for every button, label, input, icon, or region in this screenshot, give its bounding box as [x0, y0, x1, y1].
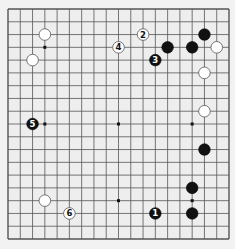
black-stone[interactable]: [186, 208, 198, 220]
black-stone[interactable]: [186, 182, 198, 194]
black-stone-circle: [162, 42, 174, 54]
move-number-label: 5: [30, 119, 36, 129]
star-point: [191, 199, 194, 202]
black-stone-move-1[interactable]: 1: [150, 208, 162, 220]
white-stone-circle: [199, 67, 211, 79]
star-point: [43, 123, 46, 126]
black-stone-circle: [199, 144, 211, 156]
white-stone-circle: [39, 195, 51, 207]
star-point: [117, 123, 120, 126]
black-stone-move-5[interactable]: 5: [27, 118, 39, 130]
black-stone[interactable]: [186, 42, 198, 54]
black-stone-circle: [199, 29, 211, 41]
move-number-label: 4: [116, 42, 122, 52]
white-stone-move-2[interactable]: 2: [137, 29, 149, 41]
move-number-label: 1: [152, 208, 158, 218]
star-point: [191, 123, 194, 126]
white-stone-circle: [27, 54, 39, 66]
black-stone-circle: [186, 208, 198, 220]
black-stone[interactable]: [199, 29, 211, 41]
white-stone[interactable]: [39, 195, 51, 207]
white-stone[interactable]: [199, 67, 211, 79]
black-stone[interactable]: [162, 42, 174, 54]
go-board[interactable]: 423516: [0, 0, 235, 249]
white-stone-circle: [211, 42, 223, 54]
white-stone-circle: [39, 29, 51, 41]
white-stone[interactable]: [199, 105, 211, 117]
white-stone-move-4[interactable]: 4: [113, 42, 125, 54]
black-stone-circle: [186, 182, 198, 194]
move-number-label: 3: [152, 55, 158, 65]
black-stone-move-3[interactable]: 3: [150, 54, 162, 66]
star-point: [43, 46, 46, 49]
white-stone[interactable]: [27, 54, 39, 66]
white-stone[interactable]: [211, 42, 223, 54]
black-stone-circle: [186, 42, 198, 54]
white-stone-move-6[interactable]: 6: [64, 208, 76, 220]
star-point: [117, 199, 120, 202]
black-stone[interactable]: [199, 144, 211, 156]
move-number-label: 6: [66, 208, 72, 218]
white-stone[interactable]: [39, 29, 51, 41]
white-stone-circle: [199, 105, 211, 117]
move-number-label: 2: [140, 30, 146, 40]
